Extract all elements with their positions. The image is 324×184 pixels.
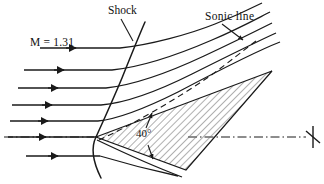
figure-canvas [0,0,324,184]
centerline-symbol-icon [306,126,320,148]
sonic-line-leader-arrow [222,24,243,40]
supersonic-wedge-figure: Shock Sonic line M = 1.31 40° [0,0,324,184]
wedge-angle-label: 40° [136,128,151,139]
shock-leader-line [121,19,133,41]
shock-label: Shock [108,5,137,17]
flow-direction-arrows [36,48,76,156]
sonic-line-label: Sonic line [205,11,254,23]
mach-number-label: M = 1.31 [30,37,74,49]
